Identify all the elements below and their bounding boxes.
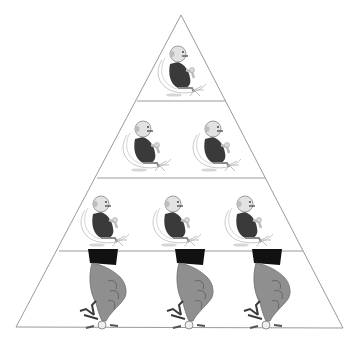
pyramid-diagram xyxy=(0,0,357,341)
